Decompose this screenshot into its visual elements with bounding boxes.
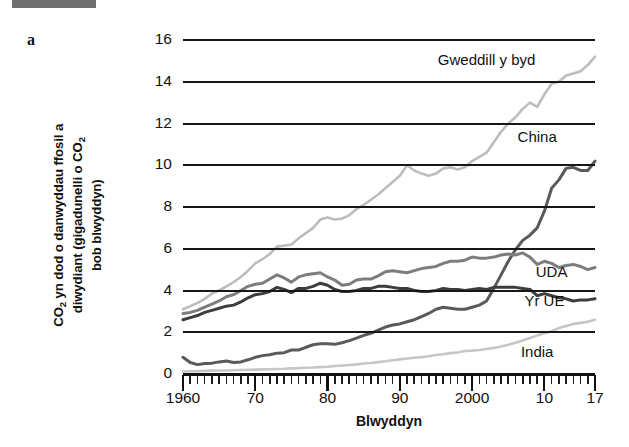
- x-tick-minor: [558, 375, 560, 384]
- y-tick-label: 14: [128, 72, 172, 90]
- x-tick-minor: [435, 375, 437, 384]
- x-tick-minor: [291, 375, 293, 384]
- gridline: [183, 248, 595, 250]
- x-tick-minor: [522, 375, 524, 384]
- x-tick-label: 2000: [455, 389, 489, 407]
- gridline: [183, 206, 595, 208]
- panel-letter: a: [27, 31, 35, 49]
- top-redaction-bar: [12, 0, 96, 8]
- series-label-uda: UDA: [536, 263, 568, 280]
- x-tick-minor: [573, 375, 575, 384]
- x-tick-label: 17: [586, 389, 603, 407]
- x-axis-line: [183, 373, 595, 376]
- x-tick-minor: [211, 375, 213, 384]
- x-tick-minor: [536, 375, 538, 384]
- x-tick-minor: [464, 375, 466, 384]
- x-tick-label: 70: [247, 389, 264, 407]
- y-axis-label: CO2 yn dod o danwyddau ffosil adiwydiant…: [51, 60, 105, 390]
- x-tick-minor: [276, 375, 278, 384]
- x-tick-minor: [500, 375, 502, 384]
- x-tick-minor: [283, 375, 285, 384]
- series-label-gweddill-y-byd: Gweddill y byd: [438, 51, 536, 68]
- x-tick-minor: [377, 375, 379, 384]
- x-tick-minor: [312, 375, 314, 384]
- x-tick-minor: [479, 375, 481, 384]
- x-tick-minor: [421, 375, 423, 384]
- x-tick-minor: [320, 375, 322, 384]
- x-tick-minor: [587, 375, 589, 384]
- gridline: [183, 331, 595, 333]
- y-tick-label: 2: [128, 322, 172, 340]
- x-tick-minor: [348, 375, 350, 384]
- x-tick-minor: [493, 375, 495, 384]
- x-tick-minor: [580, 375, 582, 384]
- series-line: [183, 161, 595, 365]
- y-tick-label: 0: [128, 364, 172, 382]
- x-tick-minor: [240, 375, 242, 384]
- x-tick-minor: [298, 375, 300, 384]
- x-tick-minor: [529, 375, 531, 384]
- x-tick-minor: [565, 375, 567, 384]
- x-tick-minor: [442, 375, 444, 384]
- x-tick-minor: [370, 375, 372, 384]
- x-tick-minor: [413, 375, 415, 384]
- series-label-india: India: [521, 343, 554, 360]
- gridline: [183, 81, 595, 83]
- x-tick-label: 1960: [166, 389, 200, 407]
- y-tick-label: 6: [128, 239, 172, 257]
- x-tick-minor: [363, 375, 365, 384]
- x-tick-minor: [269, 375, 271, 384]
- x-tick-minor: [392, 375, 394, 384]
- x-tick-minor: [356, 375, 358, 384]
- gridline: [183, 123, 595, 125]
- x-tick-minor: [450, 375, 452, 384]
- series-label-china: China: [518, 128, 557, 145]
- series-label-yr-ue: Yr UE: [524, 292, 564, 309]
- x-tick-minor: [334, 375, 336, 384]
- x-tick-minor: [218, 375, 220, 384]
- x-tick-minor: [197, 375, 199, 384]
- plot-area: [183, 40, 595, 374]
- y-tick-label: 16: [128, 30, 172, 48]
- x-axis-label: Blwyddyn: [183, 413, 595, 429]
- x-tick-minor: [428, 375, 430, 384]
- x-tick-minor: [226, 375, 228, 384]
- x-tick-minor: [341, 375, 343, 384]
- gridline: [183, 39, 595, 41]
- x-tick-minor: [247, 375, 249, 384]
- y-tick-label: 12: [128, 114, 172, 132]
- gridline: [183, 164, 595, 166]
- x-tick-minor: [551, 375, 553, 384]
- y-tick-label: 4: [128, 281, 172, 299]
- x-tick-minor: [457, 375, 459, 384]
- x-tick-minor: [385, 375, 387, 384]
- x-tick-label: 90: [391, 389, 408, 407]
- x-tick-minor: [233, 375, 235, 384]
- x-tick-minor: [515, 375, 517, 384]
- y-tick-label: 8: [128, 197, 172, 215]
- x-tick-label: 10: [536, 389, 553, 407]
- x-tick-minor: [305, 375, 307, 384]
- x-tick-minor: [406, 375, 408, 384]
- y-axis-label-text: CO2 yn dod o danwyddau ffosil adiwydiant…: [51, 124, 104, 327]
- x-tick-minor: [189, 375, 191, 384]
- x-tick-minor: [204, 375, 206, 384]
- x-tick-minor: [486, 375, 488, 384]
- x-tick-minor: [507, 375, 509, 384]
- y-tick-label: 10: [128, 155, 172, 173]
- x-tick-minor: [262, 375, 264, 384]
- x-tick-label: 80: [319, 389, 336, 407]
